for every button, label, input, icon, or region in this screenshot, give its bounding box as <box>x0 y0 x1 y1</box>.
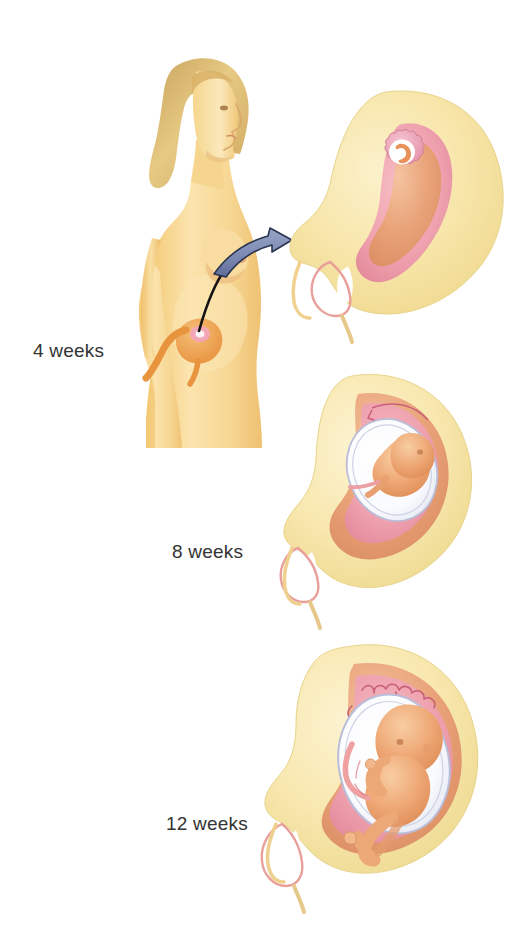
uterus-8-weeks <box>281 374 472 628</box>
stage-label-8-weeks: 8 weeks <box>172 541 243 563</box>
uterus-4-tube <box>293 262 310 318</box>
fetus-8-eye <box>417 449 423 454</box>
woman-eye <box>220 106 228 111</box>
stage-label-4-weeks: 4 weeks <box>33 340 104 362</box>
uterus-8-vagina <box>310 602 320 628</box>
uterus-12-vagina <box>294 886 304 912</box>
fetus-12-foot <box>344 832 356 844</box>
fetus-12-eye <box>397 739 404 745</box>
stage-label-12-weeks: 12 weeks <box>166 813 248 835</box>
uterus-4-vagina <box>342 316 352 342</box>
pregnancy-stages-illustration <box>0 0 532 938</box>
uterus-12-weeks <box>262 645 478 912</box>
uterus-4-weeks <box>290 91 503 342</box>
